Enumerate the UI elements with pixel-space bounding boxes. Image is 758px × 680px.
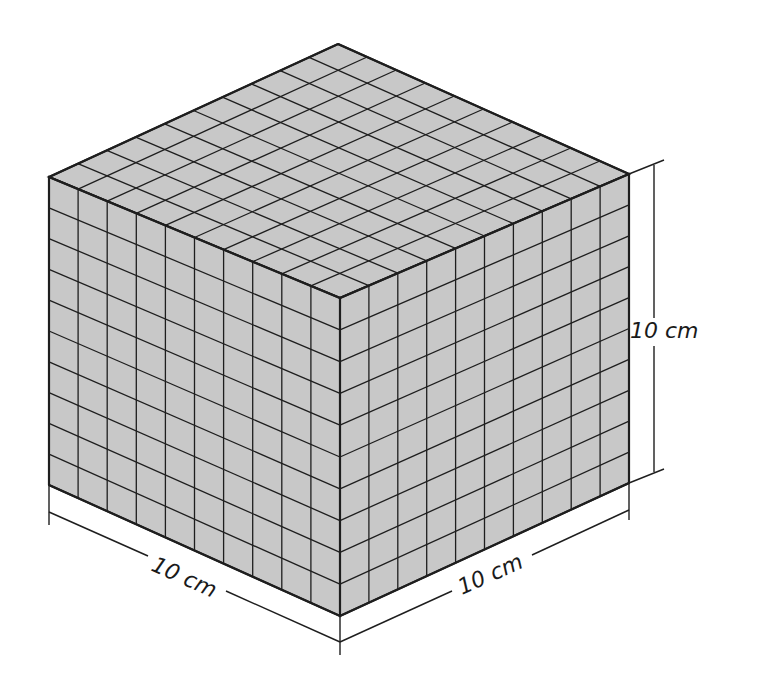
cube-diagram: 10 cm 10 cm 10 cm bbox=[0, 0, 758, 680]
height-label: 10 cm bbox=[630, 318, 699, 343]
cube bbox=[49, 44, 629, 616]
width-left-label: 10 cm bbox=[148, 552, 221, 603]
